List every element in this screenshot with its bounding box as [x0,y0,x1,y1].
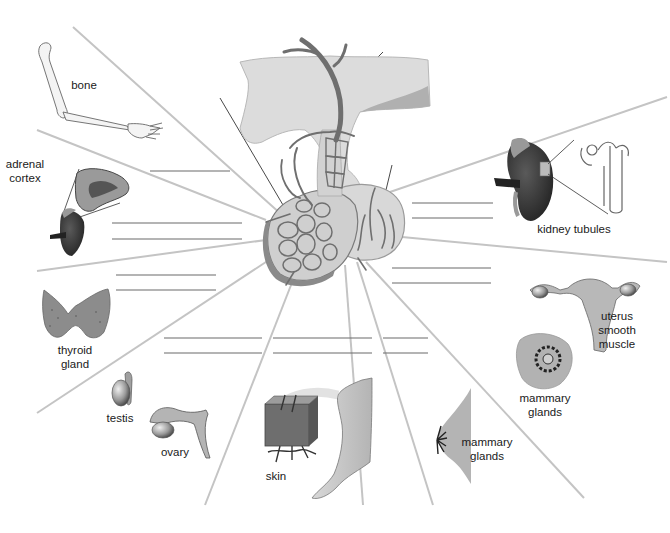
label-mammary-right-1: mammary [519,392,570,404]
label-mammary-bottom-1: mammary [461,436,512,448]
testis-illustration [112,372,132,406]
label-thyroid-1: thyroid [58,344,93,356]
thyroid-illustration [43,289,110,338]
adrenal-illustration [50,169,129,256]
mammary-right-illustration [516,334,572,389]
label-testis: testis [107,412,134,424]
label-uterus-1: uterus [601,310,633,322]
label-mammary-right-2: glands [528,406,562,418]
pituitary-gland [240,40,430,286]
label-skin: skin [266,470,286,482]
label-mammary-bottom-2: glands [470,450,504,462]
label-adrenal-2: cortex [9,172,41,184]
label-thyroid-2: gland [61,358,89,370]
label-uterus-3: muscle [599,338,635,350]
kidney-illustration [494,138,628,221]
label-bone: bone [71,79,97,91]
label-adrenal-1: adrenal [6,158,44,170]
label-uterus-2: smooth [598,324,636,336]
label-ovary: ovary [161,446,189,458]
endocrine-pituitary-diagram: bone adrenal cortex thyroid gland testis… [0,0,670,533]
diagram-canvas: bone adrenal cortex thyroid gland testis… [0,0,670,533]
label-kidney-tubules: kidney tubules [537,223,611,235]
